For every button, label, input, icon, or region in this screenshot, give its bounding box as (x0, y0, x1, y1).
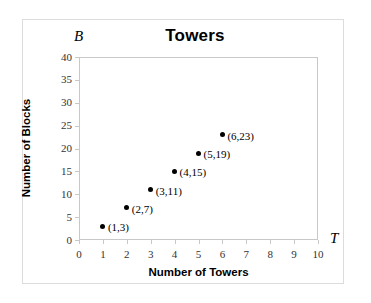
y-tick-mark (75, 194, 79, 195)
data-point-label: (5,19) (204, 149, 231, 160)
y-tick-label: 30 (48, 97, 72, 108)
x-tick-mark (199, 240, 200, 244)
y-tick-label: 0 (48, 235, 72, 246)
y-tick-mark (75, 171, 79, 172)
x-tick-label: 3 (141, 249, 161, 260)
x-tick-label: 6 (212, 249, 232, 260)
data-point (196, 151, 201, 156)
x-tick-mark (103, 240, 104, 244)
x-tick-mark (79, 240, 80, 244)
data-point-label: (4,15) (180, 167, 207, 178)
y-tick-mark (75, 149, 79, 150)
x-axis-symbol-label: T (330, 230, 338, 247)
y-tick-label: 40 (48, 52, 72, 63)
y-tick-mark (75, 80, 79, 81)
x-tick-mark (222, 240, 223, 244)
y-axis-symbol-label: B (74, 28, 83, 45)
x-tick-label: 0 (69, 249, 89, 260)
page-title: Towers (100, 26, 290, 46)
data-point-label: (1,3) (108, 222, 129, 233)
y-tick-label: 10 (48, 189, 72, 200)
data-point (172, 169, 177, 174)
y-tick-mark (75, 126, 79, 127)
y-tick-label: 35 (48, 74, 72, 85)
data-point-label: (6,23) (227, 131, 254, 142)
y-tick-mark (75, 57, 79, 58)
x-tick-label: 9 (284, 249, 304, 260)
y-tick-label: 25 (48, 120, 72, 131)
x-tick-mark (151, 240, 152, 244)
data-point-label: (2,7) (132, 204, 153, 215)
x-tick-mark (246, 240, 247, 244)
x-tick-label: 7 (236, 249, 256, 260)
x-tick-label: 8 (260, 249, 280, 260)
data-point-label: (3,11) (156, 186, 182, 197)
x-tick-mark (270, 240, 271, 244)
x-tick-mark (294, 240, 295, 244)
y-tick-mark (75, 217, 79, 218)
y-tick-label: 15 (48, 166, 72, 177)
x-tick-label: 5 (189, 249, 209, 260)
y-tick-label: 20 (48, 143, 72, 154)
x-axis-title: Number of Towers (79, 266, 318, 278)
x-tick-mark (318, 240, 319, 244)
y-axis-title: Number of Blocks (20, 99, 32, 197)
x-tick-label: 10 (308, 249, 328, 260)
y-tick-mark (75, 103, 79, 104)
x-tick-mark (175, 240, 176, 244)
x-tick-label: 4 (165, 249, 185, 260)
x-tick-mark (127, 240, 128, 244)
y-tick-label: 5 (48, 212, 72, 223)
x-tick-label: 1 (93, 249, 113, 260)
chart-screenshot: Towers B T 0510152025303540 012345678910… (0, 0, 371, 303)
plot-area (79, 57, 318, 240)
x-tick-label: 2 (117, 249, 137, 260)
